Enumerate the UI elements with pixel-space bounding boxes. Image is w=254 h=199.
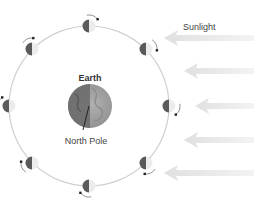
moon-top-right — [140, 40, 159, 56]
surface-marker-icon — [1, 96, 3, 98]
rotation-arrow-icon — [80, 193, 91, 197]
sunlight-label: Sunlight — [183, 22, 216, 32]
rotation-arrow-icon — [21, 162, 26, 173]
moon-left — [0, 96, 15, 112]
surface-marker-icon — [156, 49, 158, 51]
rotation-arrow-icon — [152, 40, 157, 51]
moon-top-left — [23, 37, 39, 56]
moon-right — [163, 100, 181, 116]
sunlight-arrows — [164, 30, 254, 181]
moon-top — [83, 15, 99, 33]
surface-marker-icon — [32, 37, 34, 39]
surface-marker-icon — [20, 161, 22, 163]
north-pole-label: North Pole — [65, 136, 108, 146]
sunlight-arrow-icon — [184, 63, 254, 79]
rotation-arrow-icon — [87, 15, 98, 19]
surface-marker-icon — [144, 173, 146, 175]
surface-marker-icon — [79, 192, 81, 194]
earth-label: Earth — [78, 73, 101, 83]
moon-bottom — [79, 180, 95, 198]
rotation-arrow-icon — [145, 169, 156, 174]
moon-phase-diagram: Earth North Pole Sunlight — [0, 0, 254, 199]
sunlight-arrow-icon — [184, 132, 254, 148]
sunlight-arrow-icon — [164, 165, 254, 181]
surface-marker-icon — [96, 18, 98, 20]
surface-marker-icon — [175, 113, 177, 115]
earth-globe — [68, 84, 112, 130]
rotation-arrow-icon — [176, 104, 180, 115]
rotation-arrow-icon — [23, 38, 34, 43]
moon-bottom-right — [140, 157, 156, 176]
sunlight-arrow-icon — [195, 98, 254, 114]
sunlight-arrow-icon — [164, 30, 254, 46]
rotation-arrow-icon — [0, 97, 2, 108]
moon-bottom-left — [20, 157, 39, 173]
